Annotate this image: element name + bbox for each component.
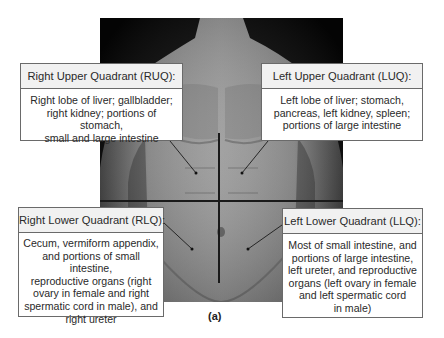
luq-contents: Left lobe of liver; stomach, pancreas, l…: [262, 89, 422, 132]
rlq-title: Right Lower Quadrant (RLQ):: [19, 208, 163, 233]
luq-title: Left Upper Quadrant (LUQ):: [262, 64, 422, 89]
ruq-title: Right Upper Quadrant (RUQ):: [21, 64, 182, 89]
rlq-label-box: Right Lower Quadrant (RLQ): Cecum, vermi…: [18, 207, 164, 317]
ruq-label-box: Right Upper Quadrant (RUQ): Right lobe o…: [20, 63, 183, 141]
llq-label-box: Left Lower Quadrant (LLQ): Most of small…: [282, 208, 423, 318]
horizontal-quadrant-line: [100, 200, 343, 202]
rlq-contents: Cecum, vermiform appendix, and portions …: [19, 233, 163, 325]
figure-caption: (a): [208, 310, 221, 322]
luq-label-box: Left Upper Quadrant (LUQ): Left lobe of …: [261, 63, 423, 141]
vertical-quadrant-line: [218, 133, 220, 283]
llq-contents: Most of small intestine, and portions of…: [283, 234, 422, 315]
llq-title: Left Lower Quadrant (LLQ):: [283, 209, 422, 234]
ruq-contents: Right lobe of liver; gallbladder; right …: [21, 89, 182, 144]
